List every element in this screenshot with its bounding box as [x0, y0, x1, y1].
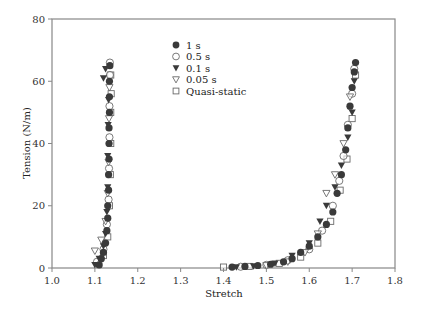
filled-circle-marker [329, 208, 336, 215]
filled-circle-marker [351, 68, 358, 75]
filled-circle-marker [173, 42, 180, 49]
open-triangle-down-marker [173, 77, 180, 83]
open-circle-marker [329, 202, 336, 209]
filled-circle-marker [105, 124, 112, 131]
filled-circle-marker [106, 93, 113, 100]
legend-label: Quasi-static [186, 86, 247, 97]
filled-circle-marker [105, 155, 112, 162]
filled-circle-marker [96, 261, 103, 268]
y-axis-title: Tension (N/m) [21, 107, 32, 179]
open-triangle-down-marker [105, 116, 112, 122]
filled-circle-marker [241, 263, 248, 270]
open-triangle-down-marker [106, 85, 113, 91]
x-tick-label: 1.4 [216, 275, 232, 286]
x-tick-label: 1.6 [301, 275, 317, 286]
series-quasi-static [100, 72, 358, 270]
series-0-05-s [91, 85, 353, 270]
legend-item: 0.5 s [173, 51, 211, 62]
legend-label: 0.5 s [186, 51, 210, 62]
open-circle-marker [106, 134, 113, 141]
legend-item: Quasi-static [173, 86, 247, 97]
y-tick-label: 40 [32, 138, 45, 149]
filled-triangle-down-marker [349, 109, 356, 115]
filled-circle-marker [102, 240, 109, 247]
x-tick-label: 1.5 [258, 275, 274, 286]
x-tick-label: 1.1 [87, 275, 103, 286]
y-tick-label: 20 [32, 200, 45, 211]
open-circle-marker [336, 177, 343, 184]
filled-circle-marker [103, 227, 110, 234]
open-triangle-down-marker [340, 141, 347, 147]
filled-circle-marker [104, 202, 111, 209]
open-triangle-down-marker [323, 190, 330, 196]
legend-item: 1 s [173, 40, 201, 51]
filled-circle-marker [106, 78, 113, 85]
open-circle-marker [106, 103, 113, 110]
y-tick-label: 0 [39, 263, 45, 274]
filled-circle-marker [105, 171, 112, 178]
filled-circle-marker [280, 258, 287, 265]
legend-item: 0.05 s [173, 74, 217, 85]
filled-circle-marker [267, 261, 274, 268]
filled-circle-marker [105, 187, 112, 194]
x-axis-title: Stretch [205, 288, 243, 299]
x-tick-label: 1.3 [173, 275, 189, 286]
legend: 1 s0.5 s0.1 s0.05 sQuasi-static [173, 40, 247, 97]
filled-circle-marker [104, 215, 111, 222]
scatter-chart: 1.01.11.21.31.41.51.61.71.8 020406080 St… [0, 0, 423, 315]
filled-circle-marker [323, 221, 330, 228]
filled-circle-marker [338, 171, 345, 178]
filled-circle-marker [306, 243, 313, 250]
filled-circle-marker [106, 109, 113, 116]
x-tick-label: 1.8 [387, 275, 403, 286]
filled-triangle-down-marker [338, 162, 345, 168]
open-circle-marker [105, 196, 112, 203]
filled-circle-marker [349, 84, 356, 91]
filled-circle-marker [344, 124, 351, 131]
legend-label: 0.1 s [186, 63, 210, 74]
filled-triangle-down-marker [316, 218, 323, 224]
x-tick-label: 1.7 [344, 275, 360, 286]
y-tick-label: 60 [32, 76, 45, 87]
filled-circle-marker [346, 103, 353, 110]
filled-circle-marker [106, 62, 113, 69]
filled-circle-marker [342, 146, 349, 153]
filled-circle-marker [334, 190, 341, 197]
filled-circle-marker [100, 249, 107, 256]
filled-circle-marker [289, 255, 296, 262]
legend-item: 0.1 s [173, 63, 211, 74]
filled-circle-marker [105, 140, 112, 147]
legend-label: 0.05 s [186, 74, 217, 85]
filled-triangle-down-marker [344, 134, 351, 140]
open-triangle-down-marker [91, 248, 98, 254]
filled-circle-marker [314, 233, 321, 240]
y-axis-ticks: 020406080 [32, 14, 52, 274]
filled-circle-marker [297, 249, 304, 256]
filled-triangle-down-marker [103, 209, 110, 215]
open-square-marker [315, 240, 321, 246]
open-circle-marker [340, 152, 347, 159]
x-tick-label: 1.0 [44, 275, 60, 286]
filled-circle-marker [98, 255, 105, 262]
y-tick-label: 80 [32, 14, 45, 25]
open-square-marker [349, 116, 355, 122]
open-circle-marker [106, 71, 113, 78]
filled-circle-marker [352, 59, 359, 66]
x-tick-label: 1.2 [130, 275, 146, 286]
filled-triangle-down-marker [173, 65, 180, 71]
filled-circle-marker [228, 263, 235, 270]
legend-label: 1 s [186, 40, 201, 51]
x-axis-ticks: 1.01.11.21.31.41.51.61.71.8 [44, 268, 403, 286]
filled-triangle-down-marker [351, 78, 358, 84]
open-circle-marker [173, 53, 180, 60]
filled-circle-marker [254, 262, 261, 269]
open-square-marker [173, 88, 179, 94]
